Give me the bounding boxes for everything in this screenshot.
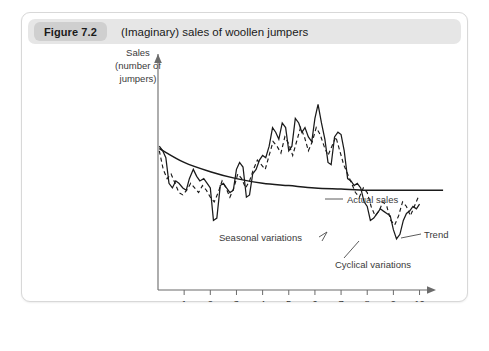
annotation-cyclical-variations: Cyclical variations — [335, 259, 411, 270]
cyclical-variations-leader-line — [344, 241, 359, 258]
x-axis-tick-label: 10 — [414, 298, 425, 302]
sales-line-chart: Sales (number of jumpers) 12345678910 Ye… — [22, 44, 467, 302]
x-axis-tick-label: 9 — [391, 298, 396, 302]
y-axis-title-line-2: (number of — [115, 60, 161, 71]
series-trend — [159, 148, 443, 190]
chart-annotations: Actual sales Trend Seasonal variations C… — [219, 194, 448, 270]
x-axis-tick-label: 2 — [208, 298, 213, 302]
figure-title: (Imaginary) sales of woollen jumpers — [121, 26, 308, 38]
chart-plot-area: Sales (number of jumpers) 12345678910 Ye… — [22, 44, 467, 302]
x-axis-tick-label: 6 — [312, 298, 317, 302]
trend-leader-line — [401, 234, 421, 238]
x-axis-arrowhead — [427, 286, 436, 294]
y-axis-title-line-3: jumpers) — [119, 73, 157, 84]
y-axis-arrowhead — [154, 54, 162, 63]
annotation-seasonal-variations: Seasonal variations — [219, 232, 302, 243]
x-axis-tick-label: 3 — [234, 298, 239, 302]
annotation-actual-sales: Actual sales — [347, 194, 398, 205]
y-axis-title-line-1: Sales — [126, 47, 150, 58]
x-axis-tick-label: 5 — [286, 298, 291, 302]
series-actual-sales — [159, 104, 419, 239]
x-axis-tick-label: 8 — [365, 298, 370, 302]
x-axis-tick-label: 7 — [338, 298, 343, 302]
figure-card: Figure 7.2 (Imaginary) sales of woollen … — [21, 12, 468, 302]
y-axis-title: Sales (number of jumpers) — [115, 47, 161, 84]
annotation-trend: Trend — [424, 229, 448, 240]
x-axis-tick-label: 4 — [260, 298, 265, 302]
seasonal-variations-leader-line — [319, 232, 327, 241]
x-axis-tick-label: 1 — [182, 298, 187, 302]
figure-header: Figure 7.2 (Imaginary) sales of woollen … — [28, 19, 461, 44]
chart-series — [159, 104, 443, 239]
figure-number-badge: Figure 7.2 — [34, 22, 107, 41]
x-axis-ticks: 12345678910 — [182, 290, 425, 302]
